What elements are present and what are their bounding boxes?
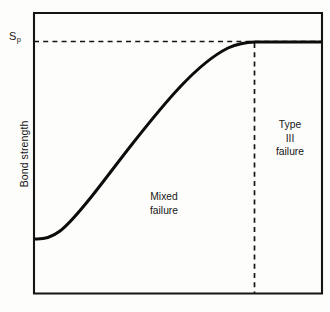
mixed-failure-line-1: Mixed xyxy=(133,190,195,204)
mixed-failure-line-2: failure xyxy=(133,204,195,218)
mixed-failure-annotation: Mixed failure xyxy=(133,190,195,217)
y-axis-label: Bond strength xyxy=(18,94,30,214)
type-iii-failure-line-1: Type xyxy=(267,118,313,132)
saturation-threshold-symbol: S xyxy=(9,30,16,42)
type-iii-failure-line-3: failure xyxy=(267,145,313,159)
saturation-threshold-subscript: p xyxy=(17,35,21,44)
saturation-threshold-label: Sp xyxy=(9,30,21,42)
type-iii-failure-line-2: III xyxy=(267,132,313,146)
chart-figure: Bond strength Sp Mixed failure Type III … xyxy=(0,0,330,312)
type-iii-failure-annotation: Type III failure xyxy=(267,118,313,159)
